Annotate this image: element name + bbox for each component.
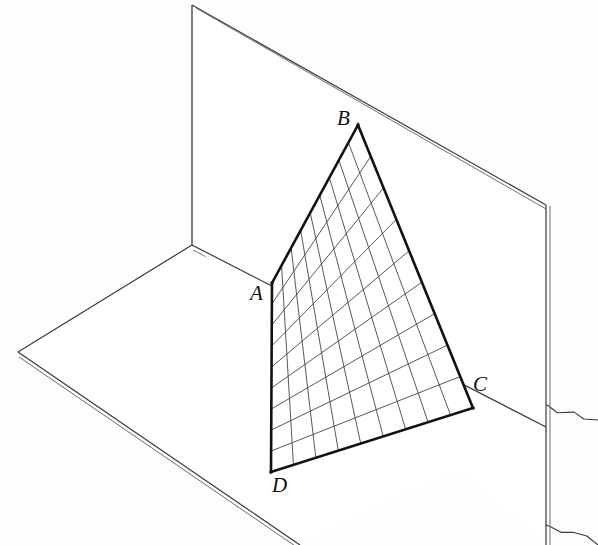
vertex-label-d: D	[272, 475, 287, 496]
vertex-dot-a	[270, 281, 274, 285]
diagram-svg	[0, 0, 598, 545]
vertex-dot-b	[356, 123, 360, 127]
vertex-label-b: B	[337, 108, 350, 129]
vertex-label-a: A	[250, 283, 263, 304]
vertex-dot-c	[471, 406, 475, 410]
vertex-label-c: C	[473, 374, 487, 395]
figure-canvas: A B C D	[0, 0, 598, 545]
